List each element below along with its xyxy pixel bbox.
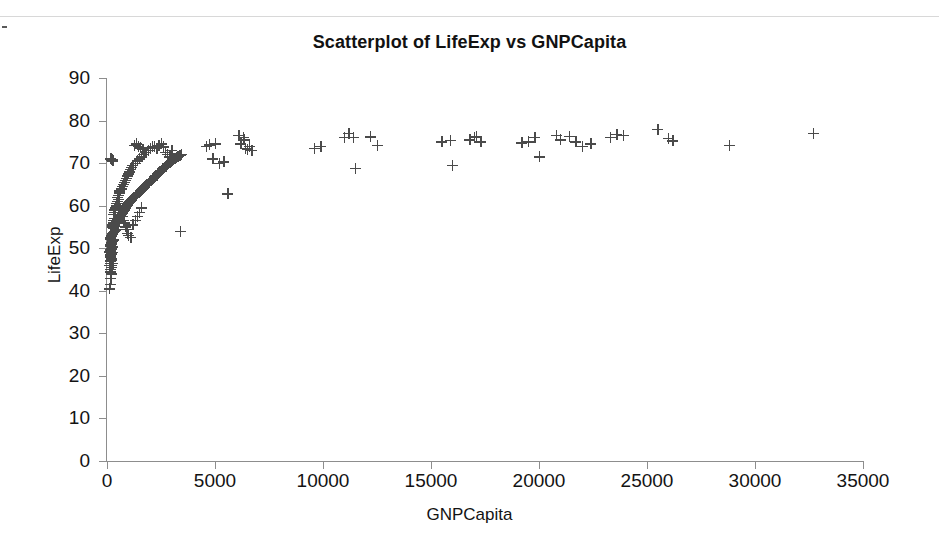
data-point (114, 212, 125, 223)
data-point (105, 239, 116, 250)
y-tick (99, 291, 106, 292)
data-point (153, 140, 164, 151)
data-point (109, 226, 120, 237)
data-point (107, 258, 118, 269)
data-point (161, 160, 172, 171)
data-point (343, 128, 354, 139)
data-point (110, 225, 121, 236)
data-point (107, 219, 118, 230)
data-point (350, 163, 361, 174)
data-point (170, 153, 181, 164)
data-point (105, 266, 116, 277)
data-point (611, 129, 622, 140)
x-tick-label: 5000 (160, 470, 270, 492)
data-point (106, 260, 117, 271)
data-point (127, 219, 138, 230)
data-point (118, 179, 129, 190)
data-point (214, 158, 225, 169)
data-point (159, 162, 170, 173)
data-point (157, 164, 168, 175)
data-point (137, 183, 148, 194)
y-tick (99, 418, 106, 419)
data-point (145, 143, 156, 154)
data-point (117, 208, 128, 219)
data-point (119, 217, 130, 228)
x-tick-label: 30000 (700, 470, 810, 492)
data-point (105, 279, 116, 290)
data-point (436, 136, 447, 147)
data-point (204, 139, 215, 150)
data-point (106, 253, 117, 264)
data-point (246, 145, 257, 156)
data-point (523, 136, 534, 147)
data-point (175, 150, 186, 161)
data-point (134, 153, 145, 164)
data-point (663, 133, 674, 144)
data-point (117, 211, 128, 222)
data-point (153, 167, 164, 178)
data-point (110, 202, 121, 213)
data-point (132, 155, 143, 166)
data-point (166, 145, 177, 156)
data-point (106, 237, 117, 248)
x-tick-label: 20000 (484, 470, 594, 492)
data-point (149, 141, 160, 152)
data-point (109, 221, 120, 232)
y-tick (99, 78, 106, 79)
data-point (309, 143, 320, 154)
data-point (144, 177, 155, 188)
x-tick (863, 462, 864, 469)
data-point (136, 202, 147, 213)
data-point (113, 213, 124, 224)
y-tick (99, 163, 106, 164)
data-point (127, 193, 138, 204)
data-point (141, 179, 152, 190)
data-point (134, 187, 145, 198)
data-point (131, 190, 142, 201)
data-point (112, 215, 123, 226)
data-point (667, 135, 678, 146)
data-point (107, 236, 118, 247)
data-point (652, 124, 663, 135)
data-point (447, 160, 458, 171)
data-point (149, 171, 160, 182)
data-point (475, 136, 486, 147)
data-point (156, 138, 167, 149)
data-point (122, 228, 133, 239)
data-point (116, 209, 127, 220)
data-point (125, 232, 136, 243)
data-point (108, 217, 119, 228)
data-point (109, 213, 120, 224)
data-point (106, 255, 117, 266)
data-point (112, 192, 123, 203)
data-point (111, 217, 122, 228)
data-point (162, 158, 173, 169)
data-point (121, 173, 132, 184)
data-point (106, 238, 117, 249)
data-point (104, 246, 115, 257)
data-point (110, 218, 121, 229)
data-point (577, 141, 588, 152)
data-point (108, 234, 119, 245)
data-point (105, 232, 116, 243)
y-tick-label: 0 (44, 450, 90, 472)
data-point (147, 141, 158, 152)
data-point (113, 200, 124, 211)
data-point (115, 211, 126, 222)
data-point (122, 170, 133, 181)
data-point (131, 138, 142, 149)
data-point (138, 182, 149, 193)
data-point (244, 141, 255, 152)
data-point (109, 219, 120, 230)
data-point (105, 233, 116, 244)
data-point (173, 151, 184, 162)
data-point (140, 147, 151, 158)
data-point (105, 264, 116, 275)
data-point (139, 181, 150, 192)
data-point (133, 141, 144, 152)
data-point (555, 134, 566, 145)
data-point (127, 160, 138, 171)
data-point (135, 142, 146, 153)
data-point (105, 240, 116, 251)
data-point (114, 198, 125, 209)
